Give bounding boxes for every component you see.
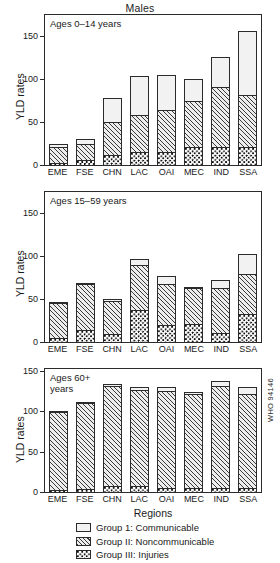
bar-segment-g3 [157, 152, 176, 166]
y-tick-label: 50 [28, 294, 38, 304]
x-tick-ind: IND [209, 344, 233, 354]
x-tick-ssa: SSA [236, 344, 260, 354]
y-tick-label: 150 [23, 366, 38, 376]
bar-segment-g2 [49, 412, 68, 490]
x-tick-mec: MEC [182, 494, 206, 504]
bar-eme [49, 192, 68, 342]
bar-segment-g2 [103, 301, 122, 335]
x-tick-ssa: SSA [236, 494, 260, 504]
who-code: WHO 94146 [266, 378, 275, 422]
x-tick-ssa: SSA [236, 167, 260, 177]
x-tick-fse: FSE [73, 494, 97, 504]
bar-lac [130, 192, 149, 342]
x-tick-labels-panel1: EMEFSECHNLACOAIMECINDSSA [44, 167, 262, 177]
x-tick-labels-panel3: EMEFSECHNLACOAIMECINDSSA [44, 494, 262, 504]
x-tick-fse: FSE [73, 167, 97, 177]
y-tick-panel3-0: 0 [33, 487, 44, 497]
y-tick-panel2-0: 0 [33, 337, 44, 347]
bar-segment-g1 [211, 57, 230, 89]
bar-segment-g3 [238, 488, 257, 493]
bar-ind [211, 192, 230, 342]
y-tick-panel1-150: 150 [23, 31, 44, 41]
bar-segment-g3 [184, 147, 203, 166]
bar-segment-g3 [130, 152, 149, 166]
bar-segment-g2 [211, 288, 230, 333]
bar-lac [130, 369, 149, 492]
y-tick-label: 50 [28, 117, 38, 127]
bar-mec [184, 15, 203, 165]
bar-segment-g2 [130, 115, 149, 154]
x-tick-eme: EME [46, 494, 70, 504]
bar-segment-g3 [49, 163, 68, 166]
bar-segment-g2 [76, 403, 95, 490]
bar-segment-g3 [103, 334, 122, 343]
bar-segment-g2 [157, 391, 176, 489]
figure-title: Males [0, 2, 280, 14]
bar-segment-g3 [49, 490, 68, 493]
x-axis-label: Regions [44, 507, 262, 519]
legend-label: Group II: Noncommunicable [96, 536, 214, 547]
legend-swatch-g1-icon [76, 523, 91, 532]
bar-chn [103, 369, 122, 492]
x-tick-lac: LAC [127, 167, 151, 177]
panel-label-ages-15-59: Ages 15–59 years [50, 195, 127, 206]
bar-segment-g2 [49, 303, 68, 339]
bar-oai [157, 192, 176, 342]
bar-oai [157, 369, 176, 492]
x-tick-labels-panel2: EMEFSECHNLACOAIMECINDSSA [44, 344, 262, 354]
bar-segment-g3 [238, 147, 257, 166]
bar-segment-g2 [103, 386, 122, 487]
bar-segment-g3 [76, 489, 95, 493]
bar-segment-g2 [184, 394, 203, 488]
panel-label-ages-0-14: Ages 0–14 years [50, 18, 121, 29]
bar-segment-g3 [211, 333, 230, 343]
bars-panel1 [45, 15, 261, 165]
x-tick-lac: LAC [127, 344, 151, 354]
bar-segment-g2 [238, 95, 257, 148]
legend-item-g3: Group III: Injuries [76, 548, 276, 562]
bar-segment-g3 [157, 488, 176, 493]
bar-segment-g3 [130, 310, 149, 343]
bar-oai [157, 15, 176, 165]
bar-segment-g3 [49, 338, 68, 343]
bar-segment-g2 [157, 110, 176, 153]
bar-chn [103, 192, 122, 342]
figure-root: Males YLD rates YLD rates YLD rates Ages… [0, 0, 280, 563]
y-tick-panel3-50: 50 [28, 447, 44, 457]
y-tick-panel1-0: 0 [33, 160, 44, 170]
bar-segment-g2 [184, 288, 203, 325]
bar-segment-g2 [184, 101, 203, 148]
x-tick-oai: OAI [155, 494, 179, 504]
legend: Group 1: CommunicableGroup II: Noncommun… [76, 521, 276, 562]
y-tick-panel2-100: 100 [23, 251, 44, 261]
bar-segment-g3 [130, 486, 149, 493]
bar-fse [76, 192, 95, 342]
bar-eme [49, 15, 68, 165]
bar-segment-g3 [76, 160, 95, 166]
x-tick-ind: IND [209, 167, 233, 177]
legend-label: Group 1: Communicable [96, 522, 199, 533]
x-tick-oai: OAI [155, 344, 179, 354]
y-tick-panel1-100: 100 [23, 74, 44, 84]
bars-panel2 [45, 192, 261, 342]
y-tick-label: 150 [23, 31, 38, 41]
panel-ages-15-59: Ages 15–59 years [44, 191, 262, 343]
legend-swatch-g3-icon [76, 550, 91, 559]
bar-segment-g3 [103, 486, 122, 493]
y-tick-panel2-50: 50 [28, 294, 44, 304]
bar-segment-g2 [130, 390, 149, 487]
y-tick-panel1-50: 50 [28, 117, 44, 127]
bar-segment-g3 [184, 488, 203, 493]
bar-segment-g1 [238, 254, 257, 275]
x-tick-chn: CHN [100, 167, 124, 177]
x-tick-oai: OAI [155, 167, 179, 177]
x-tick-eme: EME [46, 167, 70, 177]
y-tick-label: 150 [23, 208, 38, 218]
y-tick-label: 100 [23, 74, 38, 84]
bar-mec [184, 369, 203, 492]
y-tick-label: 0 [33, 487, 38, 497]
bar-fse [76, 15, 95, 165]
y-tick-label: 100 [23, 406, 38, 416]
bar-ssa [238, 192, 257, 342]
bar-ssa [238, 15, 257, 165]
